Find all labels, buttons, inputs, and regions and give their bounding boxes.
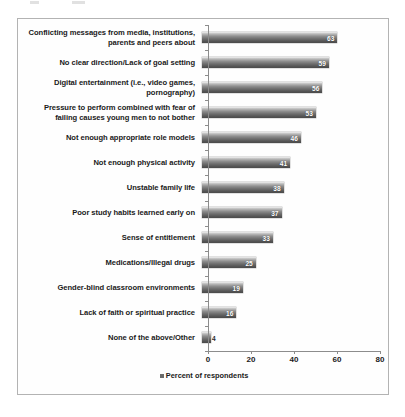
x-axis-line xyxy=(208,351,380,352)
bar-row: Lack of faith or spiritual practice16 xyxy=(24,300,384,325)
x-axis-tick-label: 60 xyxy=(333,355,342,364)
bar-track: 46 xyxy=(202,125,384,150)
bar-value-label: 16 xyxy=(226,309,233,316)
bar-row: None of the above/Other4 xyxy=(24,325,384,350)
bar-track: 16 xyxy=(202,300,384,325)
bar-value-label: 4 xyxy=(212,334,216,341)
bar[interactable]: 41 xyxy=(202,157,290,168)
bar-value-label: 19 xyxy=(233,284,240,291)
bar-track: 63 xyxy=(202,25,384,50)
bar-track: 56 xyxy=(202,75,384,100)
bar[interactable]: 46 xyxy=(202,132,301,143)
bar[interactable]: 59 xyxy=(202,57,329,68)
x-axis-tick-label: 0 xyxy=(206,355,210,364)
scan-smudge xyxy=(30,1,39,4)
bar-track: 33 xyxy=(202,225,384,250)
y-axis-line xyxy=(208,25,209,351)
category-label: Unstable family life xyxy=(24,183,202,192)
legend-swatch-icon xyxy=(160,374,164,378)
bar-track: 19 xyxy=(202,275,384,300)
bar-value-label: 59 xyxy=(319,59,326,66)
x-axis-tick-labels: 020406080 xyxy=(208,355,380,367)
bar[interactable]: 56 xyxy=(202,82,322,93)
bar-value-label: 46 xyxy=(291,134,298,141)
y-axis-tick xyxy=(205,326,208,327)
bar-row: Gender-blind classroom environments19 xyxy=(24,275,384,300)
category-label: Digital entertainment (i.e., video games… xyxy=(24,78,202,97)
bar[interactable]: 25 xyxy=(202,257,256,268)
x-axis-tick-label: 20 xyxy=(247,355,256,364)
bar-row: Not enough physical activity41 xyxy=(24,150,384,175)
bar-track: 4 xyxy=(202,325,384,350)
bar-value-label: 41 xyxy=(280,159,287,166)
bar-row: Conflicting messages from media, institu… xyxy=(24,25,384,50)
y-axis-tick xyxy=(205,100,208,101)
category-label: Conflicting messages from media, institu… xyxy=(24,28,202,47)
chart-frame: Conflicting messages from media, institu… xyxy=(17,18,389,395)
scan-artifact-top xyxy=(0,0,405,14)
y-axis-tick xyxy=(205,226,208,227)
y-axis-tick xyxy=(205,251,208,252)
category-label: Poor study habits learned early on xyxy=(24,208,202,217)
bar-value-label: 37 xyxy=(271,209,278,216)
bar[interactable]: 4 xyxy=(202,332,211,343)
y-axis-tick xyxy=(205,201,208,202)
bar-row: Pressure to perform combined with fear o… xyxy=(24,100,384,125)
x-axis-tick-label: 40 xyxy=(290,355,299,364)
bar-track: 41 xyxy=(202,150,384,175)
category-label: Sense of entitlement xyxy=(24,233,202,242)
y-axis-tick xyxy=(205,125,208,126)
category-label: None of the above/Other xyxy=(24,333,202,342)
category-label: Not enough appropriate role models xyxy=(24,133,202,142)
bar-rows: Conflicting messages from media, institu… xyxy=(24,25,384,350)
bar-track: 53 xyxy=(202,100,384,125)
y-axis-tick xyxy=(205,25,208,26)
bar-value-label: 53 xyxy=(306,109,313,116)
bar-value-label: 25 xyxy=(245,259,252,266)
bar-row: Digital entertainment (i.e., video games… xyxy=(24,75,384,100)
y-axis-tick xyxy=(205,75,208,76)
bar-value-label: 56 xyxy=(312,84,319,91)
bar[interactable]: 63 xyxy=(202,32,337,43)
x-axis-tick xyxy=(294,351,295,354)
legend-label: Percent of respondents xyxy=(166,371,249,380)
y-axis-tick xyxy=(205,175,208,176)
category-label: Gender-blind classroom environments xyxy=(24,283,202,292)
bar-row: Unstable family life38 xyxy=(24,175,384,200)
category-label: Lack of faith or spiritual practice xyxy=(24,308,202,317)
y-axis-tick xyxy=(205,301,208,302)
plot-area: Conflicting messages from media, institu… xyxy=(18,19,390,396)
bar[interactable]: 37 xyxy=(202,207,282,218)
x-axis-tick xyxy=(380,351,381,354)
bar-row: Medications/Illegal drugs25 xyxy=(24,250,384,275)
category-label: No clear direction/Lack of goal setting xyxy=(24,58,202,67)
category-label: Not enough physical activity xyxy=(24,158,202,167)
bar-track: 37 xyxy=(202,200,384,225)
bar-row: No clear direction/Lack of goal setting5… xyxy=(24,50,384,75)
bar-track: 38 xyxy=(202,175,384,200)
x-axis-tick-label: 80 xyxy=(376,355,385,364)
y-axis-tick xyxy=(205,276,208,277)
x-axis-tick xyxy=(251,351,252,354)
bar-row: Poor study habits learned early on37 xyxy=(24,200,384,225)
bar-row: Not enough appropriate role models46 xyxy=(24,125,384,150)
bar-value-label: 38 xyxy=(273,184,280,191)
category-label: Medications/Illegal drugs xyxy=(24,258,202,267)
bar-value-label: 63 xyxy=(327,34,334,41)
category-label: Pressure to perform combined with fear o… xyxy=(24,103,202,122)
x-axis-tick xyxy=(208,351,209,354)
y-axis-tick xyxy=(205,150,208,151)
chart-legend: Percent of respondents xyxy=(18,371,390,380)
y-axis-tick xyxy=(205,50,208,51)
bar[interactable]: 53 xyxy=(202,107,316,118)
bar-track: 25 xyxy=(202,250,384,275)
bar[interactable]: 38 xyxy=(202,182,284,193)
x-axis-tick xyxy=(337,351,338,354)
scan-smudge xyxy=(72,1,85,4)
bar-value-label: 33 xyxy=(263,234,270,241)
bar-row: Sense of entitlement33 xyxy=(24,225,384,250)
bar[interactable]: 33 xyxy=(202,232,273,243)
bar-track: 59 xyxy=(202,50,384,75)
